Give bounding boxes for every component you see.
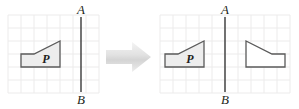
shape-label-p: P: [42, 52, 50, 66]
line-label-b: B: [221, 92, 229, 107]
reflection-figure: A B P A B P: [0, 0, 299, 109]
line-label-b: B: [77, 92, 85, 107]
shape-label-p: P: [186, 52, 194, 66]
line-label-a: A: [220, 2, 229, 17]
figure-container: A B P A B P: [0, 0, 299, 109]
line-label-a: A: [76, 2, 85, 17]
